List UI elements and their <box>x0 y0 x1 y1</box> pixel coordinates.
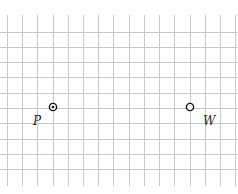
grid-diagram <box>0 0 238 194</box>
points <box>49 103 193 110</box>
point-label-w: W <box>203 114 215 128</box>
point-p-center-dot <box>52 106 55 109</box>
point-label-p: P <box>33 114 41 128</box>
point-w-marker <box>186 103 193 110</box>
grid-lines <box>0 15 238 186</box>
